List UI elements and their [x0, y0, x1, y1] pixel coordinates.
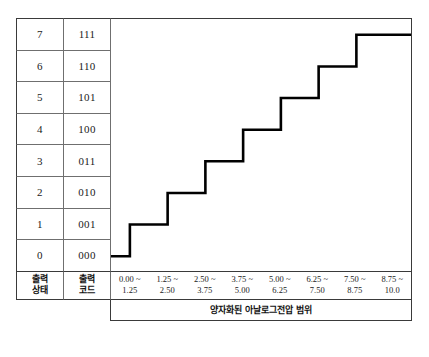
table-cell-code: 001	[63, 208, 110, 240]
x-axis-tick-band: 0.00 ~ 1.25 1.25 ~ 2.50 2.50 ~ 3.75 3.75…	[110, 271, 412, 300]
header-code-line2: 코드	[79, 285, 96, 296]
staircase-curve	[111, 19, 412, 271]
x-axis-tick: 8.75 ~ 10.0	[374, 272, 412, 299]
table-cell-state: 2	[16, 176, 63, 208]
spacer-cell	[16, 300, 110, 321]
tick-range-top: 8.75 ~	[381, 274, 403, 285]
tick-range-bottom: 1.25	[122, 285, 137, 296]
tick-range-top: 2.50 ~	[194, 274, 216, 285]
table-cell-code: 000	[63, 239, 110, 271]
table-header-output-code: 출력 코드	[63, 271, 110, 300]
table-cell-state: 1	[16, 208, 63, 240]
x-axis-tick: 2.50 ~ 3.75	[186, 272, 224, 299]
tick-range-top: 0.00 ~	[119, 274, 141, 285]
x-axis-caption: 양자화된 아날로그전압 범위	[110, 300, 412, 321]
header-state-line1: 출력	[32, 274, 49, 285]
x-axis-tick: 3.75 ~ 5.00	[224, 272, 262, 299]
figure-grid: 7 111 6 110 5 101 4 100 3 011 2 010 1 00…	[16, 18, 412, 340]
tick-range-bottom: 6.25	[272, 285, 287, 296]
tick-range-top: 1.25 ~	[156, 274, 178, 285]
table-header-output-state: 출력 상태	[16, 271, 63, 300]
x-axis-tick: 0.00 ~ 1.25	[111, 272, 149, 299]
tick-range-bottom: 7.50	[310, 285, 325, 296]
table-cell-state: 0	[16, 239, 63, 271]
tick-range-bottom: 8.75	[347, 285, 362, 296]
x-axis-tick: 6.25 ~ 7.50	[299, 272, 337, 299]
table-cell-code: 010	[63, 176, 110, 208]
adc-quantization-figure: 7 111 6 110 5 101 4 100 3 011 2 010 1 00…	[16, 18, 412, 340]
tick-range-top: 5.00 ~	[269, 274, 291, 285]
header-state-line2: 상태	[32, 285, 49, 296]
table-cell-code: 111	[63, 18, 110, 50]
tick-range-top: 3.75 ~	[231, 274, 253, 285]
tick-range-top: 7.50 ~	[344, 274, 366, 285]
x-axis-tick: 5.00 ~ 6.25	[261, 272, 299, 299]
table-cell-state: 6	[16, 50, 63, 82]
header-code-line1: 출력	[79, 274, 96, 285]
table-cell-state: 7	[16, 18, 63, 50]
x-axis-tick: 1.25 ~ 2.50	[149, 272, 187, 299]
table-cell-code: 110	[63, 50, 110, 82]
table-cell-code: 101	[63, 81, 110, 113]
table-cell-code: 011	[63, 144, 110, 176]
table-cell-code: 100	[63, 113, 110, 145]
tick-range-bottom: 10.0	[385, 285, 400, 296]
table-cell-state: 4	[16, 113, 63, 145]
table-cell-state: 3	[16, 144, 63, 176]
quantization-staircase-plot	[110, 18, 412, 271]
tick-range-top: 6.25 ~	[306, 274, 328, 285]
x-axis-tick: 7.50 ~ 8.75	[336, 272, 374, 299]
table-cell-state: 5	[16, 81, 63, 113]
tick-range-bottom: 2.50	[160, 285, 175, 296]
tick-range-bottom: 3.75	[197, 285, 212, 296]
tick-range-bottom: 5.00	[235, 285, 250, 296]
